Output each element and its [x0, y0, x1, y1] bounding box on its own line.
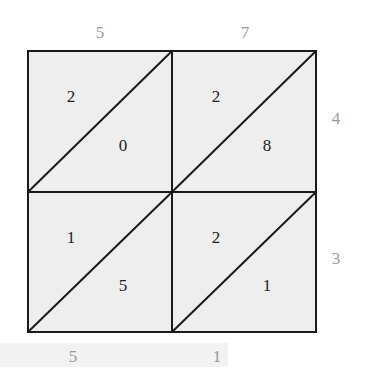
cell-ones-digit: 1	[263, 276, 272, 295]
cell-ones-digit: 5	[119, 276, 128, 295]
bottom-digit: 1	[213, 347, 222, 366]
top-digit: 5	[96, 23, 105, 42]
right-digit: 3	[332, 249, 341, 268]
bottom-digit: 5	[69, 347, 78, 366]
cell-tens-digit: 1	[67, 228, 76, 247]
cell-tens-digit: 2	[212, 228, 221, 247]
top-digit: 7	[241, 23, 250, 42]
cell-tens-digit: 2	[67, 87, 76, 106]
cell-tens-digit: 2	[212, 87, 221, 106]
lattice-grid: 5 7 4 3 2 0 2 8 1 5 2 1 5 1	[0, 0, 365, 375]
cell-ones-digit: 0	[119, 136, 128, 155]
right-digit: 4	[332, 109, 341, 128]
cell-ones-digit: 8	[263, 136, 272, 155]
